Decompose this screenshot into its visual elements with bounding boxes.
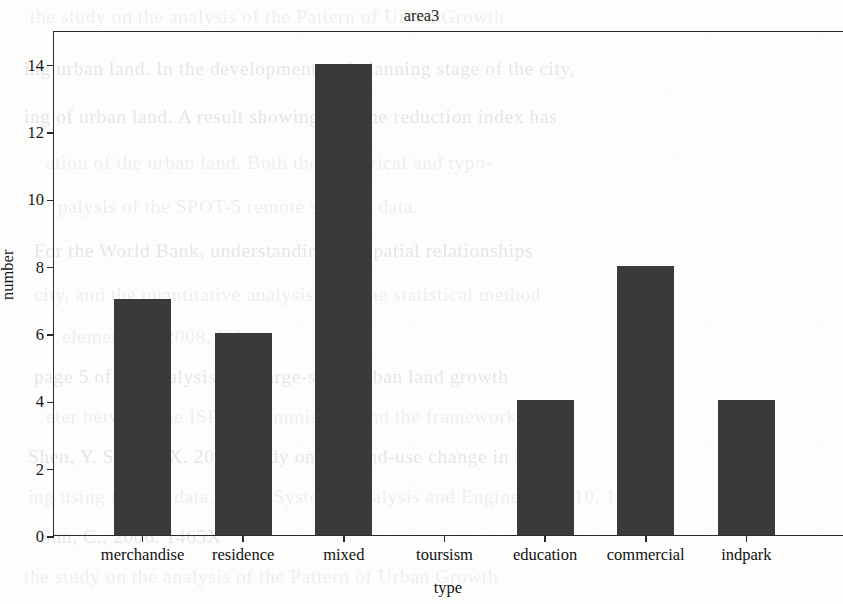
x-tick-label: commercial — [607, 545, 685, 565]
y-tick-mark — [47, 132, 54, 134]
x-tick-mark — [343, 535, 345, 542]
x-tick-mark — [645, 535, 647, 542]
y-axis-label: number — [0, 250, 18, 300]
y-tick-label: 0 — [36, 527, 44, 547]
x-tick-mark — [544, 535, 546, 542]
x-tick-mark — [142, 535, 144, 542]
y-tick-label: 8 — [36, 258, 44, 278]
bar — [315, 64, 372, 535]
x-axis-label: type — [53, 578, 843, 598]
x-tick-mark — [444, 535, 446, 542]
y-tick-label: 10 — [28, 190, 45, 210]
y-tick-mark — [47, 469, 54, 471]
y-tick-mark — [47, 334, 54, 336]
y-tick-mark — [47, 200, 54, 202]
x-tick-label: mixed — [323, 545, 364, 565]
bar — [617, 266, 674, 535]
plot-area: 02468101214 merchandiseresidencemixedtou… — [53, 31, 843, 536]
x-tick-label: residence — [212, 545, 274, 565]
x-tick-mark — [746, 535, 748, 542]
y-tick-mark — [47, 65, 54, 67]
y-tick-mark — [47, 267, 54, 269]
bar — [114, 299, 171, 535]
y-tick-label: 2 — [36, 460, 44, 480]
chart-title: area3 — [0, 6, 843, 26]
y-tick-label: 12 — [28, 123, 45, 143]
y-tick-label: 4 — [36, 392, 44, 412]
x-tick-label: merchandise — [101, 545, 184, 565]
x-tick-label: education — [513, 545, 577, 565]
y-tick-mark — [47, 402, 54, 404]
x-tick-label: indpark — [721, 545, 771, 565]
x-tick-mark — [242, 535, 244, 542]
bar — [215, 333, 272, 535]
bar-chart: area3 02468101214 merchandiseresidencemi… — [0, 0, 843, 604]
y-tick-label: 14 — [28, 56, 45, 76]
bar — [517, 400, 574, 535]
bar — [718, 400, 775, 535]
y-tick-mark — [47, 536, 54, 538]
y-tick-label: 6 — [36, 325, 44, 345]
x-tick-label: toursism — [416, 545, 473, 565]
